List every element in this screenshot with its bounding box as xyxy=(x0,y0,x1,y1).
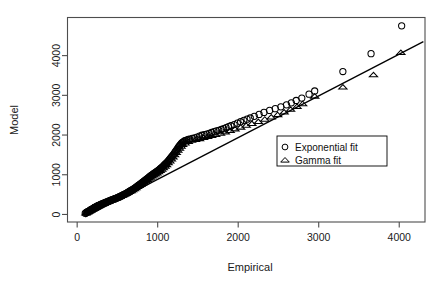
y-tick-label: 3000 xyxy=(51,83,63,107)
x-tick-label: 2000 xyxy=(227,231,251,243)
y-tick-label: 1000 xyxy=(51,163,63,187)
qq-plot-figure: 01000200030004000 01000200030004000 Empi… xyxy=(0,0,444,288)
x-tick-label: 4000 xyxy=(388,231,412,243)
x-tick-label: 3000 xyxy=(307,231,331,243)
x-tick-label: 1000 xyxy=(146,231,170,243)
legend-entry-label: Gamma fit xyxy=(295,155,341,166)
x-axis-title: Empirical xyxy=(227,261,272,273)
y-tick-label: 2000 xyxy=(51,123,63,147)
x-tick-label: 0 xyxy=(74,231,80,243)
chart-canvas: 01000200030004000 01000200030004000 Empi… xyxy=(0,0,444,288)
y-tick-label: 4000 xyxy=(51,44,63,68)
legend-entry-label: Exponential fit xyxy=(295,142,358,153)
chart-legend[interactable]: Exponential fitGamma fit xyxy=(277,136,387,166)
y-tick-label: 0 xyxy=(51,211,63,217)
y-axis-title: Model xyxy=(8,105,20,135)
